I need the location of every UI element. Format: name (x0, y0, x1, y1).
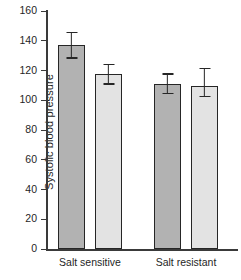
error-cap-bottom (199, 96, 210, 97)
bar-2-error-bar (103, 64, 114, 85)
bar-group-bar-1 (58, 11, 85, 249)
error-stem (108, 64, 109, 85)
bar-4 (191, 86, 218, 249)
error-cap-bottom (66, 57, 77, 58)
bar-3-error-bar (162, 73, 173, 94)
bar-chart: Systolic blood pressure 1601401201008060… (0, 0, 241, 280)
x-axis-line (46, 249, 238, 251)
error-cap-top (103, 64, 114, 65)
bar-1-error-bar (66, 32, 77, 59)
error-stem (167, 73, 168, 94)
error-cap-top (199, 68, 210, 69)
x-axis-label-2: Salt resistant (136, 256, 236, 268)
bar-4-error-bar (199, 68, 210, 98)
bar-group-bar-3 (154, 11, 181, 249)
error-cap-bottom (103, 83, 114, 84)
error-stem (71, 32, 72, 59)
bar-3 (154, 84, 181, 249)
bar-1 (58, 45, 85, 249)
bar-group-bar-2 (95, 11, 122, 249)
error-cap-top (162, 73, 173, 74)
error-cap-top (66, 32, 77, 33)
error-stem (204, 68, 205, 98)
bar-2 (95, 74, 122, 249)
x-axis-label-1: Salt sensitive (40, 256, 140, 268)
error-cap-bottom (162, 93, 173, 94)
bars-layer (0, 11, 241, 249)
bar-group-bar-4 (191, 11, 218, 249)
